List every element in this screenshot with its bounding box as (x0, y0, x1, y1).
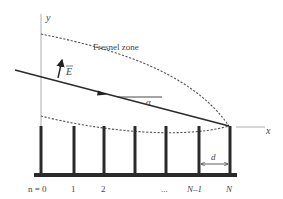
post-label-2: 2 (101, 184, 106, 194)
angle-alpha-label: α (146, 97, 151, 107)
post-label-1: 1 (71, 184, 76, 194)
spacing-label: d (211, 152, 216, 162)
y-axis-label: y (45, 12, 51, 23)
posts (41, 126, 230, 175)
ground-plane (34, 173, 237, 177)
post-label-n: N (225, 184, 233, 194)
fresnel-zone-label: Fresnel zone (93, 42, 139, 52)
post-label-0: n = 0 (28, 184, 47, 194)
post-label-ellipsis: ... (161, 184, 168, 194)
post-label-n-minus-1: N–1 (186, 184, 202, 194)
fresnel-diagram: y x Fresnel zone α E d n = 0 1 2 ... N–1… (0, 0, 283, 199)
field-vector-label: E (65, 66, 72, 77)
x-axis-label: x (265, 125, 271, 136)
incident-ray (15, 70, 229, 126)
field-vector-arrow-icon (58, 60, 62, 78)
